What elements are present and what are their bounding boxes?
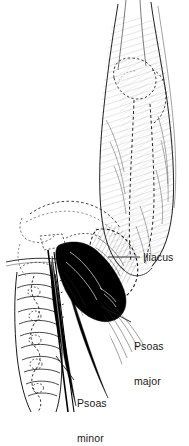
label-psoas-minor-line2: minor	[77, 433, 107, 445]
label-iliacus: Iliacus	[143, 252, 173, 264]
label-psoas-minor: Psoas minor	[77, 375, 107, 446]
label-psoas-minor-line1: Psoas	[77, 398, 107, 410]
label-psoas-major-line1: Psoas	[134, 341, 164, 353]
label-psoas-major: Psoas major	[134, 318, 164, 410]
label-psoas-major-line2: major	[134, 376, 164, 388]
